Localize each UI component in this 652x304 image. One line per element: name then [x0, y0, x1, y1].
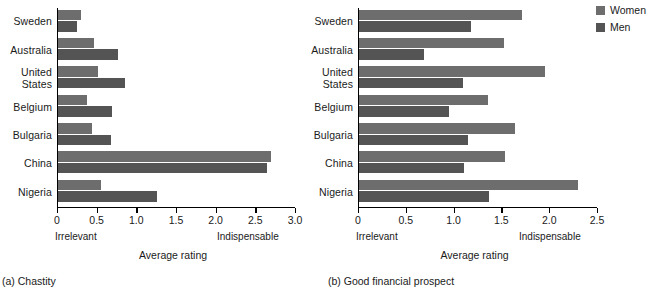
- category-row: Australia: [0, 36, 57, 64]
- bar-women: [359, 66, 545, 77]
- bar-row: [359, 178, 598, 206]
- bar-men: [58, 135, 111, 146]
- legend: Women Men: [596, 4, 646, 38]
- bar-women: [359, 10, 522, 21]
- axis-tick: [501, 208, 502, 213]
- plot-area-a: [57, 8, 296, 207]
- bar-women: [359, 95, 488, 106]
- bar-men: [58, 106, 112, 117]
- category-labels-b: SwedenAustraliaUnited StatesBelgiumBulga…: [326, 8, 358, 207]
- bar-women: [58, 66, 98, 77]
- bar-women: [359, 180, 578, 191]
- bar-row: [359, 8, 598, 36]
- category-label: Bulgaria: [314, 130, 358, 142]
- axis-tick: [454, 208, 455, 213]
- bar-row: [359, 93, 598, 121]
- category-label: Nigeria: [18, 187, 57, 199]
- category-row: Bulgaria: [0, 122, 57, 150]
- bar-women: [359, 151, 505, 162]
- bar-men: [359, 191, 489, 202]
- panel-caption: (a) Chastity: [2, 275, 56, 287]
- axis-tick: [597, 208, 598, 213]
- bar-women: [58, 180, 101, 191]
- legend-swatch-men-icon: [596, 23, 605, 32]
- axis-tick: [97, 208, 98, 213]
- category-label: Bulgaria: [13, 130, 57, 142]
- axis-tick: [216, 208, 217, 213]
- panel-chastity: SwedenAustraliaUnited StatesBelgiumBulga…: [0, 0, 326, 304]
- bar-row: [58, 36, 296, 64]
- bar-row: [359, 65, 598, 93]
- bar-men: [359, 106, 449, 117]
- bar-row: [58, 122, 296, 150]
- bar-men: [359, 78, 463, 89]
- axis-high-anchor-label: Indispensable: [217, 231, 279, 242]
- category-label: Sweden: [314, 16, 358, 28]
- category-row: Nigeria: [0, 178, 57, 206]
- legend-label-women: Women: [610, 4, 646, 16]
- category-row: Belgium: [0, 93, 57, 121]
- bar-row: [58, 150, 296, 178]
- axis-line: [358, 207, 597, 208]
- bar-row: [58, 93, 296, 121]
- category-row: China: [0, 150, 57, 178]
- category-label: Nigeria: [319, 187, 358, 199]
- category-labels-a: SwedenAustraliaUnited StatesBelgiumBulga…: [0, 8, 57, 207]
- bar-women: [58, 123, 92, 134]
- axis-tick-label: 2.5: [248, 214, 263, 226]
- legend-item-men: Men: [596, 21, 646, 33]
- bar-men: [58, 163, 267, 174]
- bar-row: [58, 8, 296, 36]
- axis-title: Average rating: [441, 249, 509, 261]
- axis-tick: [549, 208, 550, 213]
- bar-women: [359, 123, 515, 134]
- panel-good-financial-prospect: SwedenAustraliaUnited StatesBelgiumBulga…: [326, 0, 652, 304]
- axis-tick-label: 1.0: [446, 214, 461, 226]
- axis-tick-label: 0.5: [89, 214, 104, 226]
- axis-tick-label: 1.0: [129, 214, 144, 226]
- category-row: Sweden: [326, 8, 358, 36]
- axis-high-anchor-label: Indispensable: [519, 231, 581, 242]
- category-row: Australia: [326, 36, 358, 64]
- axis-tick: [176, 208, 177, 213]
- bar-row: [359, 150, 598, 178]
- category-row: Sweden: [0, 8, 57, 36]
- category-label: Australia: [311, 45, 358, 57]
- bar-men: [58, 21, 77, 32]
- category-label: China: [325, 158, 358, 170]
- bar-men: [359, 49, 424, 60]
- axis-tick-label: 2.5: [590, 214, 605, 226]
- axis-tick-label: 1.5: [169, 214, 184, 226]
- category-label: Australia: [10, 45, 57, 57]
- axis-tick: [406, 208, 407, 213]
- axis-tick-label: 0: [54, 214, 60, 226]
- category-row: Belgium: [326, 93, 358, 121]
- axis-tick: [358, 208, 359, 213]
- bar-row: [359, 36, 598, 64]
- legend-label-men: Men: [610, 21, 630, 33]
- category-label: Belgium: [13, 102, 57, 114]
- axis-tick: [255, 208, 256, 213]
- bar-row: [58, 65, 296, 93]
- bar-men: [359, 21, 471, 32]
- plot-area-b: [358, 8, 598, 207]
- panel-caption: (b) Good financial prospect: [328, 275, 454, 287]
- axis-tick-label: 3.0: [288, 214, 303, 226]
- category-label: United States: [322, 67, 358, 90]
- axis-low-anchor-label: Irrelevant: [55, 231, 97, 242]
- category-row: Bulgaria: [326, 122, 358, 150]
- axis-tick: [57, 208, 58, 213]
- axis-tick-label: 0.5: [398, 214, 413, 226]
- bar-men: [58, 191, 157, 202]
- bar-men: [58, 49, 118, 60]
- category-label: Belgium: [314, 102, 358, 114]
- axis-tick-label: 2.0: [542, 214, 557, 226]
- bar-men: [359, 135, 468, 146]
- bar-women: [58, 10, 81, 21]
- bar-women: [359, 38, 504, 49]
- legend-swatch-women-icon: [596, 6, 605, 15]
- category-label: China: [24, 158, 57, 170]
- axis-tick: [295, 208, 296, 213]
- axis-tick-label: 1.5: [494, 214, 509, 226]
- category-label: Sweden: [13, 16, 57, 28]
